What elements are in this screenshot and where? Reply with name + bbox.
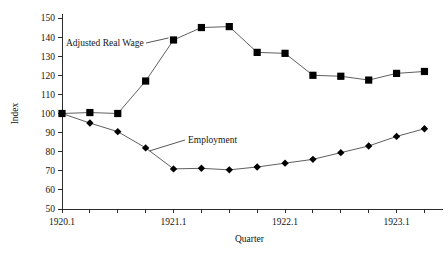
data-point-diamond [114,128,121,135]
data-point-diamond [198,165,205,172]
y-axis-title: Index [10,102,20,124]
data-point-square [226,23,233,30]
y-tick-label: 150 [41,13,56,23]
annotation-leader-line-employment [150,140,185,151]
data-point-diamond [337,149,344,156]
data-point-diamond [86,119,93,126]
y-tick-label: 80 [46,147,56,157]
data-point-square [170,36,177,43]
y-tick-label: 60 [46,185,56,195]
chart-canvas: 50607080901001101201301401501920.11921.1… [0,0,448,255]
data-point-square [142,77,149,84]
data-point-diamond [226,166,233,173]
x-tick-label: 1921.1 [160,217,186,227]
data-point-diamond [421,125,428,132]
data-point-square [114,110,121,117]
x-axis-title: Quarter [235,234,265,244]
y-tick-label: 90 [46,128,56,138]
y-tick-label: 120 [41,71,56,81]
data-point-diamond [253,163,260,170]
x-tick-label: 1920.1 [49,217,75,227]
data-point-square [337,73,344,80]
y-tick-label: 130 [41,52,56,62]
series-label-employment: Employment [188,135,237,145]
y-tick-label: 50 [46,204,56,214]
data-point-square [421,68,428,75]
data-point-square [309,72,316,79]
series-line-2 [62,114,424,170]
data-point-square [198,24,205,31]
y-tick-label: 140 [41,33,56,43]
data-point-diamond [281,159,288,166]
data-point-square [365,76,372,83]
data-point-diamond [309,156,316,163]
data-point-diamond [142,144,149,151]
x-tick-label: 1922.1 [272,217,298,227]
data-point-square [281,50,288,57]
data-point-diamond [393,133,400,140]
data-point-diamond [170,165,177,172]
x-tick-label: 1923.1 [384,217,410,227]
data-point-square [254,49,261,56]
data-point-square [393,70,400,77]
data-point-square [86,109,93,116]
chart-figure: 50607080901001101201301401501920.11921.1… [0,0,448,255]
y-tick-label: 70 [46,166,56,176]
annotation-leader-line-wage [146,38,169,43]
data-point-diamond [365,142,372,149]
y-tick-label: 100 [41,109,56,119]
series-label-adjusted-real-wage: Adjusted Real Wage [66,38,144,48]
y-tick-label: 110 [41,90,55,100]
